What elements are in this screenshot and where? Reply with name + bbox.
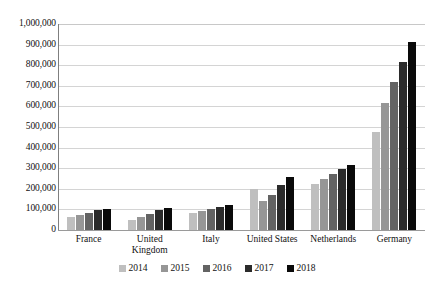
legend-swatch-icon [245,265,252,272]
bar[interactable] [320,179,328,231]
category-label-line: France [58,234,119,245]
legend-label: 2014 [129,264,148,274]
legend-item[interactable]: 2016 [203,264,232,274]
bar[interactable] [155,210,163,230]
y-axis-tick-label: 500,000 [2,122,56,132]
x-axis-category-label: Netherlands [303,232,364,260]
bar[interactable] [259,201,267,230]
legend-swatch-icon [119,265,126,272]
y-axis-tick-label: 300,000 [2,163,56,173]
legend-item[interactable]: 2015 [161,264,190,274]
bar-group [303,24,364,230]
category-label-line: Netherlands [303,234,364,245]
bar[interactable] [399,62,407,230]
legend-item[interactable]: 2018 [287,264,316,274]
bar[interactable] [207,209,215,230]
bar-groups [58,24,425,230]
x-axis-line [58,230,425,231]
y-axis-tick-label: 800,000 [2,60,56,70]
bar[interactable] [311,184,319,230]
bar[interactable] [146,214,154,230]
bar[interactable] [286,177,294,230]
bar[interactable] [277,185,285,230]
bar-group [364,24,425,230]
bar-group [58,24,119,230]
legend-item[interactable]: 2017 [245,264,274,274]
bar[interactable] [372,132,380,230]
bar[interactable] [329,174,337,230]
bar[interactable] [189,213,197,231]
legend-label: 2018 [297,264,316,274]
legend-item[interactable]: 2014 [119,264,148,274]
category-label-line: Italy [180,234,241,245]
x-axis-category-labels: FranceUnitedKingdomItalyUnited StatesNet… [58,232,425,260]
y-axis-tick-label: 900,000 [2,40,56,50]
bar[interactable] [347,165,355,230]
legend-label: 2015 [171,264,190,274]
bar[interactable] [250,189,258,230]
bar[interactable] [381,103,389,230]
bar[interactable] [164,208,172,230]
bar[interactable] [94,210,102,230]
legend-swatch-icon [161,265,168,272]
x-axis-category-label: Germany [364,232,425,260]
bar[interactable] [85,213,93,231]
bar[interactable] [408,42,416,230]
y-axis-tick-labels: 1,000,000900,000800,000700,000600,000500… [0,0,56,293]
legend-label: 2016 [213,264,232,274]
x-axis-category-label: United States [242,232,303,260]
category-label-line: Germany [364,234,425,245]
bar[interactable] [76,215,84,230]
y-axis-tick-label: 400,000 [2,143,56,153]
bar[interactable] [128,220,136,230]
bar[interactable] [67,217,75,230]
y-axis-tick-label: 0 [2,225,56,235]
y-axis-tick-label: 700,000 [2,81,56,91]
category-label-line: Kingdom [119,245,180,256]
x-axis-category-label: Italy [180,232,241,260]
bar[interactable] [225,205,233,230]
legend-swatch-icon [203,265,210,272]
bar[interactable] [137,217,145,230]
bar[interactable] [103,209,111,230]
bar[interactable] [268,195,276,230]
y-axis-tick-label: 100,000 [2,204,56,214]
x-axis-category-label: France [58,232,119,260]
bar-chart: 1,000,000900,000800,000700,000600,000500… [0,0,434,293]
bar-group [119,24,180,230]
bar[interactable] [338,169,346,230]
bar-group [242,24,303,230]
x-axis-category-label: UnitedKingdom [119,232,180,260]
chart-legend: 20142015201620172018 [0,264,434,274]
legend-swatch-icon [287,265,294,272]
bar[interactable] [216,207,224,230]
category-label-line: United States [242,234,303,245]
y-axis-tick-label: 200,000 [2,184,56,194]
y-axis-tick-label: 1,000,000 [2,19,56,29]
legend-label: 2017 [255,264,274,274]
category-label-line: United [119,234,180,245]
bar-group [180,24,241,230]
y-axis-tick-label: 600,000 [2,101,56,111]
bar[interactable] [390,82,398,230]
bar[interactable] [198,211,206,230]
